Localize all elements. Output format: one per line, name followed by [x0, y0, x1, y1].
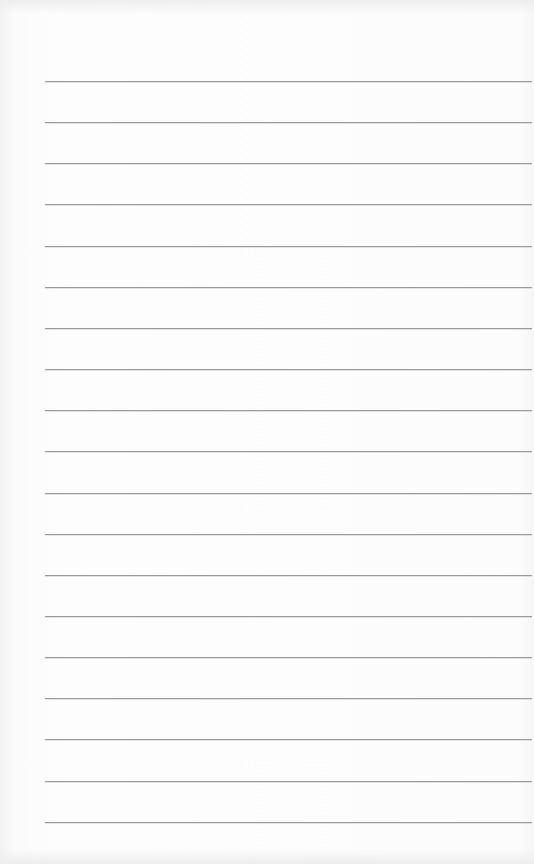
ruled-line	[45, 328, 532, 329]
ruled-line	[45, 575, 532, 576]
ruled-line	[45, 657, 532, 658]
ruled-line	[45, 451, 532, 452]
ruled-line	[45, 287, 532, 288]
ruled-line	[45, 246, 532, 247]
ruled-line	[45, 616, 532, 617]
ruled-line	[45, 122, 532, 123]
ruled-line	[45, 81, 532, 82]
ruled-line	[45, 369, 532, 370]
lined-paper-sheet	[0, 0, 534, 864]
ruled-line	[45, 822, 532, 823]
ruled-line	[45, 698, 532, 699]
ruled-line	[45, 163, 532, 164]
ruled-line	[45, 493, 532, 494]
ruled-line	[45, 410, 532, 411]
ruled-line	[45, 204, 532, 205]
ruled-line	[45, 739, 532, 740]
ruled-line	[45, 781, 532, 782]
ruled-line	[45, 534, 532, 535]
